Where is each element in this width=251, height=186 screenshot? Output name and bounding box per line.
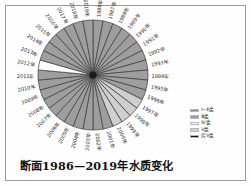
legend-swatch xyxy=(190,122,199,125)
legend: Ⅰ~Ⅱ类Ⅲ类Ⅳ类Ⅴ类劣Ⅴ类 xyxy=(190,107,246,140)
legend-item-label: Ⅴ类 xyxy=(201,128,209,133)
legend-item-label: Ⅳ类 xyxy=(201,121,210,126)
legend-item[interactable]: Ⅰ~Ⅱ类 xyxy=(190,107,246,114)
legend-swatch xyxy=(190,115,199,118)
legend-swatch xyxy=(190,109,199,112)
year-label: 2019年 xyxy=(82,0,91,17)
year-label: 2003年 xyxy=(82,133,91,151)
chart-figure: 1986年1987年1988年1989年1990年1991年1992年1993年… xyxy=(0,0,251,186)
legend-swatch xyxy=(190,135,199,138)
pie-chart-plot: 1986年1987年1988年1989年1990年1991年1992年1993年… xyxy=(0,0,186,152)
legend-swatch xyxy=(190,128,199,131)
year-label: 1994年 xyxy=(152,72,170,79)
legend-item[interactable]: 劣Ⅴ类 xyxy=(190,133,246,140)
legend-item[interactable]: Ⅳ类 xyxy=(190,120,246,127)
legend-item-label: Ⅲ类 xyxy=(201,115,209,120)
page-title: 断面1986—2019年水质变化 xyxy=(9,157,184,173)
pie-center-hub xyxy=(89,71,96,78)
year-label: 2011年 xyxy=(17,72,35,79)
legend-item[interactable]: Ⅴ类 xyxy=(190,127,246,134)
legend-item-label: Ⅰ~Ⅱ类 xyxy=(201,108,214,113)
legend-item[interactable]: Ⅲ类 xyxy=(190,114,246,121)
legend-item-label: 劣Ⅴ类 xyxy=(201,134,214,139)
